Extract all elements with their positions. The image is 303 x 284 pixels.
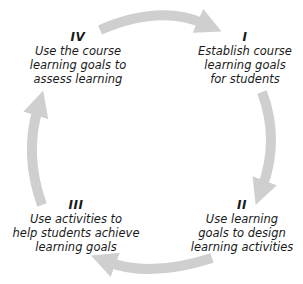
step-text-line: Use learning <box>182 212 302 226</box>
arrow-i-to-ii <box>262 92 271 188</box>
step-ii: II Use learning goals to design learning… <box>182 198 302 254</box>
step-numeral: I <box>190 30 300 44</box>
step-iii: III Use activities to help students achi… <box>2 198 150 254</box>
arrow-ii-to-iii <box>108 258 212 269</box>
step-text-line: help students achieve <box>2 226 150 240</box>
step-text-line: learning activities <box>182 240 302 254</box>
step-numeral: IV <box>18 30 138 44</box>
step-text-line: Use activities to <box>2 212 150 226</box>
step-text-line: for students <box>190 72 300 86</box>
step-numeral: III <box>2 198 150 212</box>
arrow-iii-to-iv <box>32 108 42 205</box>
step-i: I Establish course learning goals for st… <box>190 30 300 86</box>
step-text-line: learning goals <box>2 240 150 254</box>
step-text-line: assess learning <box>18 72 138 86</box>
step-text-line: Establish course <box>190 44 300 58</box>
step-text-line: learning goals <box>190 58 300 72</box>
arrow-iv-to-i <box>100 15 205 30</box>
step-text-line: Use the course <box>18 44 138 58</box>
step-iv: IV Use the course learning goals to asse… <box>18 30 138 86</box>
step-numeral: II <box>182 198 302 212</box>
step-text-line: learning goals to <box>18 58 138 72</box>
step-text-line: goals to design <box>182 226 302 240</box>
